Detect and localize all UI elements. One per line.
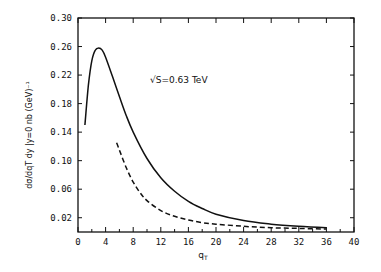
y-tick-label: 0.22	[50, 70, 72, 80]
y-tick-label: 0.18	[50, 99, 72, 109]
y-axis-label-text: dσ/dqT dy |y=0 nb (GeV)⁻¹	[25, 81, 34, 189]
energy-annotation: √S=0.63 TeV	[150, 75, 208, 85]
x-tick-label: 24	[238, 237, 249, 247]
x-tick-label: 16	[183, 237, 194, 247]
x-tick-label: 28	[266, 237, 277, 247]
y-tick-label: 0.06	[50, 184, 72, 194]
chart: 04812162024283236400.020.060.100.140.180…	[0, 0, 381, 272]
y-tick-label: 0.02	[50, 213, 72, 223]
x-axis-label: qT	[198, 250, 208, 261]
x-tick-label: 20	[211, 237, 222, 247]
x-tick-label: 8	[130, 237, 135, 247]
y-tick-label: 0.14	[50, 127, 72, 137]
y-tick-label: 0.30	[50, 13, 72, 23]
x-tick-label: 32	[293, 237, 304, 247]
x-tick-label: 40	[349, 237, 360, 247]
y-axis-label: dσ/dqT dy |y=0 nb (GeV)⁻¹	[25, 81, 34, 189]
plot-border	[78, 18, 354, 232]
x-tick-label: 0	[75, 237, 80, 247]
plot-frame	[78, 18, 354, 232]
x-tick-label: 4	[103, 237, 108, 247]
x-tick-label: 12	[155, 237, 166, 247]
y-tick-label: 0.10	[50, 156, 72, 166]
x-axis-label-sub: T	[203, 254, 208, 261]
y-tick-label: 0.26	[50, 42, 72, 52]
x-tick-label: 36	[321, 237, 332, 247]
